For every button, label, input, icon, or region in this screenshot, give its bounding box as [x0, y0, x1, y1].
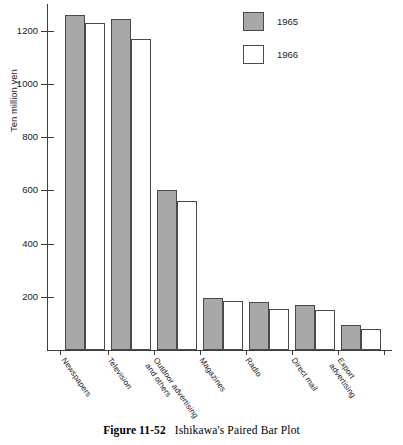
y-axis-tick-mark — [41, 297, 54, 298]
legend-label-1966: 1966 — [277, 49, 298, 60]
x-axis-category-label: Direct mail — [289, 356, 319, 393]
y-axis-tick-label: 200 — [22, 290, 38, 303]
figure-caption-title: Ishikawa's Paired Bar Plot — [175, 424, 300, 436]
bar-1966[interactable] — [177, 201, 197, 350]
bar-1965[interactable] — [249, 302, 269, 350]
x-axis-tick-mark — [338, 350, 339, 355]
y-axis-tick-mark — [41, 84, 54, 85]
x-axis-category-label: Outdoor advertising and others — [143, 356, 200, 426]
x-axis-category-label: Radio — [243, 356, 263, 379]
figure-caption: Figure 11-52Ishikawa's Paired Bar Plot — [0, 424, 403, 436]
bar-group — [65, 4, 105, 350]
bar-1966[interactable] — [85, 23, 105, 350]
figure-container: Ten million yen 20040060080010001200 New… — [0, 0, 403, 445]
bar-1965[interactable] — [203, 298, 223, 350]
x-axis-tick-mark — [108, 350, 109, 355]
x-axis-category-label: Television — [105, 356, 134, 391]
y-axis-tick-mark — [41, 190, 54, 191]
bar-1966[interactable] — [223, 301, 243, 350]
bar-1966[interactable] — [361, 329, 381, 350]
x-axis-tick-mark — [200, 350, 201, 355]
x-axis-tick-mark — [154, 350, 155, 355]
y-axis-tick-label: 1000 — [17, 77, 38, 90]
x-axis-tick-mark — [384, 350, 385, 355]
bar-group — [111, 4, 151, 350]
y-axis-tick-label: 800 — [22, 130, 38, 143]
bar-group — [203, 4, 243, 350]
bar-1965[interactable] — [295, 305, 315, 350]
y-axis-line — [47, 4, 48, 351]
bar-1965[interactable] — [157, 190, 177, 350]
x-axis-tick-mark — [292, 350, 293, 355]
bar-1965[interactable] — [341, 325, 361, 350]
figure-caption-number: Figure 11-52 — [103, 424, 166, 436]
y-axis-tick-mark — [41, 31, 54, 32]
x-axis-category-label: Export advertising — [327, 356, 371, 407]
bar-1966[interactable] — [269, 309, 289, 350]
y-axis-tick-label: 400 — [22, 237, 38, 250]
bar-1965[interactable] — [65, 15, 85, 350]
legend-item-1966[interactable]: 1966 — [243, 45, 353, 64]
y-axis-tick-mark — [41, 244, 54, 245]
legend-label-1965: 1965 — [277, 16, 298, 27]
x-axis-category-label: Newspapers — [59, 356, 93, 399]
y-axis-tick-label: 600 — [22, 183, 38, 196]
legend-swatch-1965-icon — [243, 12, 264, 31]
chart-legend: 1965 1966 — [243, 12, 353, 78]
bar-group — [157, 4, 197, 350]
x-axis-tick-mark — [246, 350, 247, 355]
bar-1965[interactable] — [111, 19, 131, 350]
bar-1966[interactable] — [131, 39, 151, 350]
legend-item-1965[interactable]: 1965 — [243, 12, 353, 31]
x-axis-line — [47, 350, 392, 351]
y-axis-tick-label: 1200 — [17, 24, 38, 37]
x-axis-tick-mark — [60, 350, 61, 355]
y-axis-tick-mark — [41, 137, 54, 138]
bar-1966[interactable] — [315, 310, 335, 350]
legend-swatch-1966-icon — [243, 45, 264, 64]
x-axis-category-label: Magazines — [197, 356, 227, 394]
